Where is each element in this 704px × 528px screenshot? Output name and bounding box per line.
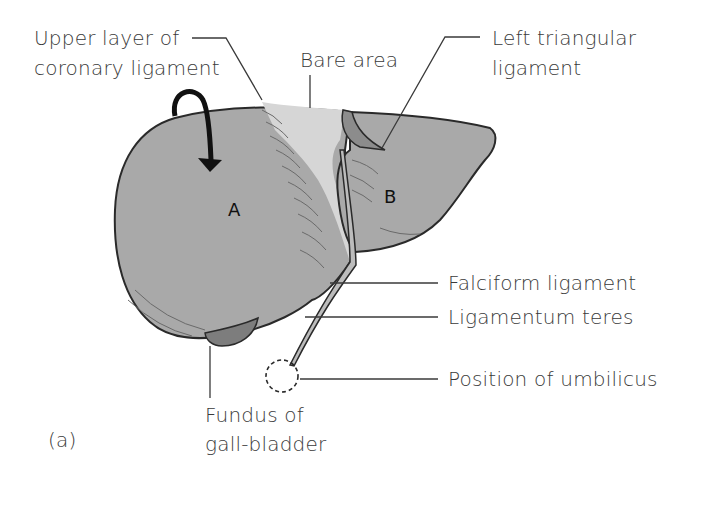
label-upper-coronary-line1: Upper layer of xyxy=(34,26,180,50)
label-falciform: Falciform ligament xyxy=(448,271,636,295)
label-gallbladder-line1: Fundus of xyxy=(205,403,304,427)
label-umbilicus: Position of umbilicus xyxy=(448,367,658,391)
label-ligamentum-teres: Ligamentum teres xyxy=(448,305,634,329)
lobe-label-b: B xyxy=(384,186,396,207)
lobe-label-a: A xyxy=(228,199,240,220)
label-bare-area: Bare area xyxy=(300,48,398,72)
umbilicus-circle xyxy=(266,360,298,392)
label-left-triangular-line2: ligament xyxy=(492,56,581,80)
panel-label: (a) xyxy=(48,428,76,452)
label-left-triangular-line1: Left triangular xyxy=(492,26,636,50)
label-gallbladder-line2: gall-bladder xyxy=(205,432,326,456)
label-upper-coronary-line2: coronary ligament xyxy=(34,56,220,80)
